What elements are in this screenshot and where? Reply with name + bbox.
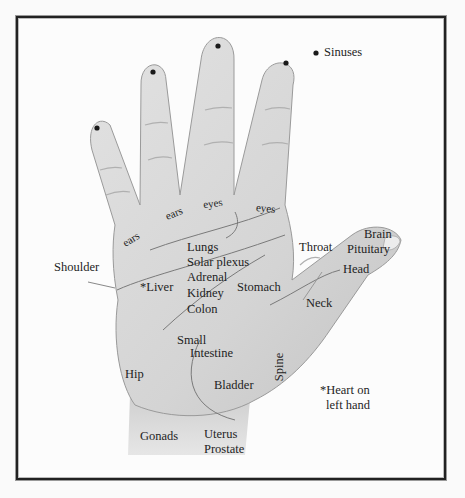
label-head: Head xyxy=(343,262,369,276)
label-small: Small xyxy=(177,333,206,347)
label-uterus: Uterus xyxy=(204,427,237,441)
legend-sinus-dot xyxy=(313,50,318,55)
middle-sinus-dot xyxy=(215,43,220,48)
hand-outline xyxy=(91,38,401,416)
label-sinuses: Sinuses xyxy=(324,45,362,59)
pinky-sinus-dot xyxy=(94,125,99,130)
ring-sinus-dot xyxy=(150,69,155,74)
label-prostate: Prostate xyxy=(204,442,244,456)
label-intestine: Intestine xyxy=(190,346,233,360)
index-sinus-dot xyxy=(283,60,288,65)
label-adrenal: Adrenal xyxy=(187,270,227,284)
label-solar-plexus: Solar plexus xyxy=(187,255,249,269)
label-eyes-1: eyes xyxy=(202,195,223,212)
label-shoulder: Shoulder xyxy=(54,260,99,274)
label-bladder: Bladder xyxy=(214,378,254,392)
label-eyes-2: eyes xyxy=(255,200,276,216)
label-lungs: Lungs xyxy=(187,240,218,254)
label-kidney: Kidney xyxy=(187,286,224,300)
label-brain: Brain xyxy=(364,227,392,241)
note-heart-line1: *Heart on xyxy=(320,383,370,397)
label-colon: Colon xyxy=(187,302,218,316)
hand-illustration xyxy=(0,0,465,498)
label-hip: Hip xyxy=(125,367,144,381)
label-pituitary: Pituitary xyxy=(347,242,390,256)
label-gonads: Gonads xyxy=(140,429,178,443)
label-spine: Spine xyxy=(272,353,286,381)
label-liver: *Liver xyxy=(140,280,173,294)
label-throat: Throat xyxy=(299,240,332,254)
label-stomach: Stomach xyxy=(237,280,281,294)
note-heart-line2: left hand xyxy=(326,398,370,412)
label-neck: Neck xyxy=(306,296,332,310)
